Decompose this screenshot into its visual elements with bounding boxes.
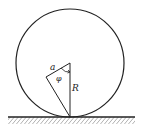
- rolling-disk-diagram: a φ R: [0, 0, 141, 133]
- label-phi: φ: [56, 74, 62, 83]
- ground-hatching: [8, 117, 135, 124]
- angle-arc: [61, 68, 70, 72]
- contact-line: [46, 77, 70, 117]
- label-a: a: [50, 62, 55, 72]
- label-R: R: [71, 83, 79, 93]
